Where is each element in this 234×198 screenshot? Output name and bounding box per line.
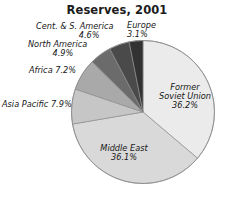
pie-chart-figure: Reserves, 2001 Cent. & S. America 4.6% N… [0,0,234,198]
slice-label-africa: Africa 7.2% [29,66,76,75]
slice-label-cent-s-america: Cent. & S. America 4.6% [36,22,114,40]
slice-label-former-soviet-union: Former Soviet Union 36.2% [152,83,218,109]
slice-label-north-america: North America 4.9% [28,40,87,58]
slice-label-africa-text: Africa 7.2% [29,65,76,75]
slice-label-middle-east: Middle East 36.1% [86,144,162,162]
slice-label-former-soviet-union-value: 36.2% [152,101,218,110]
slice-label-cent-s-america-name: Cent. & S. America [36,21,114,31]
slice-label-asia-pacific: Asia Pacific 7.9% [2,100,72,109]
slice-label-europe: Europe 3.1% [127,21,156,39]
slice-label-north-america-value: 4.9% [28,49,73,58]
slice-label-europe-value: 3.1% [127,30,156,39]
pie-slice-group [72,41,215,184]
slice-label-middle-east-value: 36.1% [86,153,162,162]
slice-label-asia-pacific-text: Asia Pacific 7.9% [2,99,72,109]
